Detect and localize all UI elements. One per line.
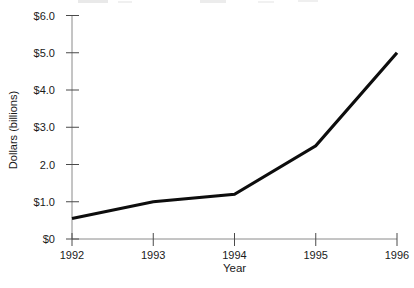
scan-artifact xyxy=(298,0,318,2)
y-tick-label: $6.0 xyxy=(34,10,55,22)
data-line-dollars-billions xyxy=(72,53,397,219)
y-tick-label: $5.0 xyxy=(34,47,55,59)
y-axis-title: Dollars (billions) xyxy=(7,70,21,190)
y-tick-label: $1.0 xyxy=(34,196,55,208)
x-tick-label: 1992 xyxy=(60,249,84,261)
scan-artifact xyxy=(118,1,132,3)
x-tick-label: 1994 xyxy=(222,249,246,261)
x-tick-label: 1996 xyxy=(385,249,409,261)
line-chart-figure: $0$1.02.0$3.0$4.0$5.0$6.0199219931994199… xyxy=(0,0,414,288)
x-axis-title: Year xyxy=(204,262,265,274)
scan-artifact xyxy=(258,1,274,3)
y-tick-label: $4.0 xyxy=(34,84,55,96)
y-tick-label: $0 xyxy=(43,233,55,245)
x-tick-label: 1995 xyxy=(304,249,328,261)
chart-canvas: $0$1.02.0$3.0$4.0$5.0$6.0199219931994199… xyxy=(0,0,414,288)
y-tick-label: 2.0 xyxy=(40,159,55,171)
scan-artifact xyxy=(78,0,108,3)
scan-artifact xyxy=(200,0,226,3)
x-tick-label: 1993 xyxy=(141,249,165,261)
y-tick-label: $3.0 xyxy=(34,121,55,133)
